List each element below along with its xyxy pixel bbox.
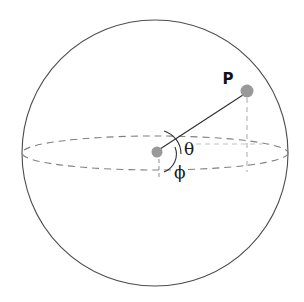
- radius-vector-line: [157, 93, 246, 151]
- origin-point-marker: [152, 147, 163, 158]
- spherical-coordinates-figure: P θ ϕ: [0, 0, 304, 302]
- theta-angle-label: θ: [184, 139, 194, 159]
- point-p-marker: [241, 85, 254, 98]
- theta-angle-arc: [164, 131, 181, 154]
- phi-angle-label: ϕ: [174, 162, 186, 182]
- point-p-label: P: [223, 70, 234, 88]
- diagram-canvas: P θ ϕ: [0, 0, 304, 302]
